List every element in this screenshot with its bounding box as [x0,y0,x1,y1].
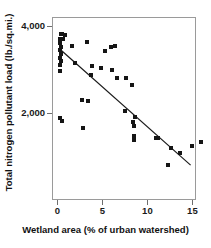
x-axis-tick-label: 0 [45,205,69,216]
data-point [58,63,62,67]
x-axis-tick-label: 15 [180,205,204,216]
data-point [113,44,117,48]
data-point [169,146,173,150]
data-point [85,40,89,44]
data-point [199,140,203,144]
data-point [156,136,160,140]
data-point [190,144,194,148]
data-point [70,44,74,48]
y-axis-title-container: Total nitrogen pollutant load (lb./sq.mi… [0,0,20,210]
data-point [166,163,170,167]
scatter-plot-figure: Total nitrogen pollutant load (lb./sq.mi… [0,0,211,248]
data-point [99,66,103,70]
plot-data-area [52,17,196,200]
data-point [110,68,114,72]
data-point [73,61,77,65]
data-point [103,49,107,53]
data-point [109,45,113,49]
data-point [81,126,85,130]
data-point [124,76,128,80]
x-axis-tick-label: 10 [135,205,159,216]
data-point [115,76,119,80]
x-axis-tick-label: 5 [90,205,114,216]
y-axis-title: Total nitrogen pollutant load (lb./sq.mi… [3,0,14,205]
data-point [132,138,136,142]
data-point [80,98,84,102]
data-point [130,83,134,87]
data-point [86,99,90,103]
data-point [123,109,127,113]
x-axis-title: Wetland area (% of urban watershed) [0,224,211,235]
data-point [90,64,94,68]
y-axis-tick-label: 2,000 [0,107,45,118]
y-axis-tick-label: 4,000 [0,20,45,31]
data-point [58,69,62,73]
data-point [132,124,136,128]
data-point [133,115,137,119]
data-point [89,73,93,77]
data-point [60,119,64,123]
data-point [178,151,182,155]
